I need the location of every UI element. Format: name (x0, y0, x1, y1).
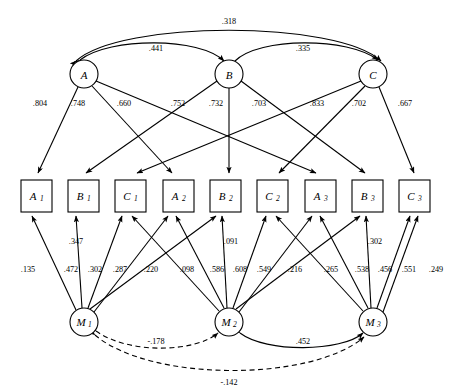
loading-label-M3-C2: .216 (288, 265, 302, 274)
factor-label-M3: M (364, 316, 375, 328)
loading-label-M1-A1: .135 (21, 265, 35, 274)
method-correlation-arcs (95, 331, 364, 371)
indicator-label-B1: B (77, 190, 84, 202)
edge-M2-A3 (239, 216, 312, 312)
corr-label-A-B: .441 (149, 44, 163, 53)
edge-M3-C3-b (383, 216, 418, 312)
loading-label-M3-B3: .538 (355, 265, 369, 274)
method-factor-labels: M 1 M 2 M 3 (75, 316, 381, 329)
indicator-label-A3: A (313, 190, 321, 202)
trait-correlation-arcs (76, 30, 381, 61)
edge-M1-B2 (90, 216, 216, 309)
indicator-sub-A1: 1 (40, 194, 44, 203)
method-correlation-labels: -.178 .452 -.142 (147, 337, 310, 387)
loading-label-M2-C2: .608 (233, 265, 247, 274)
indicator-sub-B2: 2 (229, 194, 233, 203)
corr-label-B-C: .335 (296, 44, 310, 53)
diagram-canvas: A B C M 1 M 2 M 3 A 1 B 1 C 1 A 2 B 2 C … (0, 0, 458, 391)
factor-label-A: A (80, 69, 88, 81)
loading-label-M3-A3: .265 (324, 265, 338, 274)
indicator-box-B2[interactable] (210, 180, 241, 212)
factor-sub-M1: 1 (88, 320, 92, 329)
loading-label-B-B2: .732 (209, 99, 223, 108)
indicator-label-A2: A (171, 190, 179, 202)
indicator-label-A1: A (29, 190, 37, 202)
trait-correlation-labels: .318 .441 .335 (149, 17, 310, 53)
corr-label-M1-M3: -.142 (220, 378, 237, 387)
method-loading-labels: .135 .472 .302 .287 .347 .220 .098 .586 … (21, 237, 443, 274)
loading-label-M1-A2: .287 (113, 265, 127, 274)
loading-label-A-A2: .748 (71, 99, 85, 108)
sem-path-diagram: A B C M 1 M 2 M 3 A 1 B 1 C 1 A 2 B 2 C … (0, 0, 458, 391)
edge-M3-C2 (276, 216, 363, 311)
indicator-sub-C1: 1 (134, 194, 138, 203)
trait-factor-labels: A B C (80, 69, 378, 81)
indicator-label-B2: B (219, 190, 226, 202)
factor-label-C: C (369, 69, 377, 81)
loading-label-M2-C1: .220 (144, 265, 158, 274)
loading-label-M3-C3-b: .551 (402, 265, 416, 274)
indicator-label-C2: C (265, 190, 273, 202)
edge-B-B1 (86, 81, 217, 173)
edge-M3-B3 (366, 216, 371, 308)
loading-label-A-A1: .804 (33, 99, 47, 108)
edge-M2-C1 (132, 216, 219, 311)
edge-M2-C2 (233, 216, 266, 308)
edge-C-C1 (137, 81, 361, 173)
loading-label-B-B1: .752 (171, 99, 185, 108)
loading-label-M3-C3: .456 (378, 265, 392, 274)
indicator-label-C1: C (123, 190, 131, 202)
indicator-label-C3: C (407, 190, 415, 202)
edge-M1-B1 (76, 216, 82, 308)
indicator-sub-A2: 2 (182, 194, 186, 203)
indicator-sub-C3: 3 (417, 194, 422, 203)
edge-M2-B2 (222, 216, 227, 308)
factor-label-B: B (226, 69, 233, 81)
loading-label-M2-B3: .091 (224, 237, 238, 246)
loading-label-M3-C3-c: .249 (429, 265, 443, 274)
loading-label-M2-A3: .549 (257, 265, 271, 274)
indicator-box-A3[interactable] (305, 180, 336, 212)
edge-M2-B3 (236, 216, 360, 309)
loading-label-B-B3: .703 (252, 99, 266, 108)
corr-label-M2-M3: .452 (296, 337, 310, 346)
indicator-box-B1[interactable] (68, 180, 99, 212)
loading-label-M1-B1: .472 (64, 265, 78, 274)
loading-label-M1-C1: .302 (88, 265, 102, 274)
indicator-box-A1[interactable] (21, 180, 52, 212)
corr-arc-M1-M3 (95, 335, 364, 371)
corr-label-M1-M2: -.178 (147, 337, 164, 346)
loading-label-M1-B2: .347 (69, 237, 83, 246)
trait-loading-labels: .804 .748 .660 .752 .732 .703 .833 .702 … (33, 99, 412, 108)
edge-B-B3 (241, 81, 365, 173)
edge-M3-A3 (320, 216, 368, 308)
edge-M2-A2 (176, 216, 224, 308)
loading-label-C-C2: .702 (352, 99, 366, 108)
edge-M1-A1 (32, 216, 76, 310)
corr-label-A-C: .318 (222, 17, 236, 26)
indicator-box-B3[interactable] (352, 180, 383, 212)
loading-label-C-C3: .667 (398, 99, 412, 108)
factor-sub-M2: 2 (233, 320, 237, 329)
loading-label-M2-B2: .586 (210, 265, 224, 274)
indicator-sub-B1: 1 (87, 194, 91, 203)
indicator-box-A2[interactable] (163, 180, 194, 212)
trait-loading-edges (38, 81, 414, 173)
factor-label-M2: M (220, 316, 231, 328)
indicator-label-B3: B (361, 190, 368, 202)
edge-M1-C1 (88, 216, 122, 308)
factor-sub-M3: 3 (376, 320, 381, 329)
loading-label-A-A3: .660 (117, 99, 131, 108)
loading-label-M3-extra: .302 (368, 237, 382, 246)
loading-label-C-C1: .833 (310, 99, 324, 108)
factor-label-M1: M (75, 316, 86, 328)
method-loading-edges (32, 216, 418, 312)
indicator-sub-C2: 2 (276, 194, 280, 203)
loading-label-M2-A2: .098 (180, 265, 194, 274)
indicator-sub-A3: 3 (323, 194, 328, 203)
edge-M3-C3 (377, 216, 410, 308)
indicator-sub-B3: 3 (370, 194, 375, 203)
